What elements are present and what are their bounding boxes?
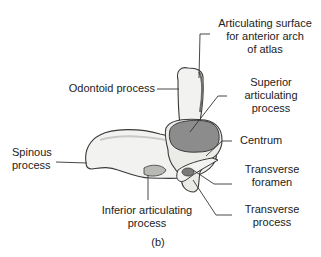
label-line: process xyxy=(232,216,312,229)
label-line: process xyxy=(12,159,52,172)
label-line: for anterior arch xyxy=(212,30,318,43)
label-line: of atlas xyxy=(212,43,318,56)
label-articulating-surface: Articulating surface for anterior arch o… xyxy=(212,17,318,56)
label-line: Spinous xyxy=(12,146,52,159)
label-line: Superior xyxy=(226,76,316,89)
label-line: process xyxy=(226,102,316,115)
figure-caption: (b) xyxy=(143,236,173,249)
label-line: foramen xyxy=(232,176,312,189)
label-line: process xyxy=(88,217,206,230)
label-line: Transverse xyxy=(232,163,312,176)
label-text: Odontoid process xyxy=(69,82,155,94)
leader-spinous-process xyxy=(56,162,87,163)
label-spinous-process: Spinous process xyxy=(12,146,52,172)
label-superior-articulating-process: Superior articulating process xyxy=(226,76,316,115)
label-transverse-foramen: Transverse foramen xyxy=(232,163,312,189)
label-inferior-articulating-process: Inferior articulating process xyxy=(88,204,206,230)
label-centrum: Centrum xyxy=(240,134,282,147)
label-text: Centrum xyxy=(240,134,282,146)
transverse-foramen-shape xyxy=(182,168,194,176)
label-line: Articulating surface xyxy=(212,17,318,30)
label-odontoid-process: Odontoid process xyxy=(40,82,155,95)
label-line: Inferior articulating xyxy=(88,204,206,217)
label-line: articulating xyxy=(226,89,316,102)
diagram-canvas: Articulating surface for anterior arch o… xyxy=(0,0,321,257)
label-transverse-process: Transverse process xyxy=(232,203,312,229)
label-line: Transverse xyxy=(232,203,312,216)
superior-articular-facet xyxy=(169,120,219,152)
caption-text: (b) xyxy=(151,236,164,248)
